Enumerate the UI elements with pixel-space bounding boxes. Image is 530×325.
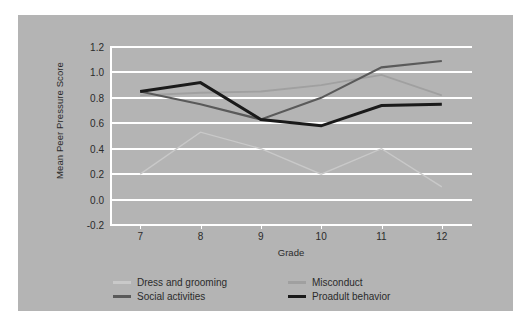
legend-swatch-icon [288, 295, 306, 298]
legend-label: Misconduct [312, 277, 363, 288]
y-tick-label: 0.4 [90, 143, 104, 154]
chart-panel: Mean Peer Pressure Score 1.21.00.80.60.4… [18, 15, 513, 311]
x-tick-label: 12 [436, 231, 447, 242]
legend-label: Proadult behavior [312, 291, 390, 302]
x-tick-mark [321, 225, 322, 229]
x-tick-label: 9 [258, 231, 264, 242]
y-tick-label: 0.0 [90, 194, 104, 205]
y-tick-label: -0.2 [87, 220, 104, 231]
legend-entry[interactable]: Misconduct [288, 276, 363, 289]
x-tick-mark [201, 225, 202, 229]
x-tick-label: 11 [376, 231, 386, 242]
x-tick-label: 7 [137, 231, 143, 242]
legend-swatch-icon [113, 281, 131, 284]
y-axis-title: Mean Peer Pressure Score [54, 36, 65, 206]
legend-swatch-icon [288, 281, 306, 284]
x-tick-label: 10 [316, 231, 327, 242]
legend-entry[interactable]: Proadult behavior [288, 290, 390, 303]
x-tick-label: 8 [198, 231, 204, 242]
plot-area: 1.21.00.80.60.40.20.0-0.2 789101112 Grad… [110, 47, 472, 225]
legend-label: Dress and grooming [137, 277, 227, 288]
y-tick-label: 1.0 [90, 67, 104, 78]
legend-entry[interactable]: Dress and grooming [113, 276, 227, 289]
y-tick-label: 0.8 [90, 92, 104, 103]
chart-legend: Dress and groomingMisconductSocial activ… [113, 276, 443, 306]
y-tick-label: 0.2 [90, 169, 104, 180]
x-axis-title: Grade [110, 247, 472, 258]
x-tick-mark [382, 225, 383, 229]
x-tick-mark [140, 225, 141, 229]
figure-canvas: Mean Peer Pressure Score 1.21.00.80.60.4… [0, 0, 530, 325]
legend-swatch-icon [113, 295, 131, 298]
legend-label: Social activities [137, 291, 205, 302]
series-line [140, 61, 442, 119]
y-tick-label: 0.6 [90, 118, 104, 129]
x-tick-mark [261, 225, 262, 229]
legend-entry[interactable]: Social activities [113, 290, 205, 303]
series-line [140, 132, 442, 187]
series-lines-group [110, 47, 472, 225]
y-tick-label: 1.2 [90, 42, 104, 53]
x-tick-mark [442, 225, 443, 229]
